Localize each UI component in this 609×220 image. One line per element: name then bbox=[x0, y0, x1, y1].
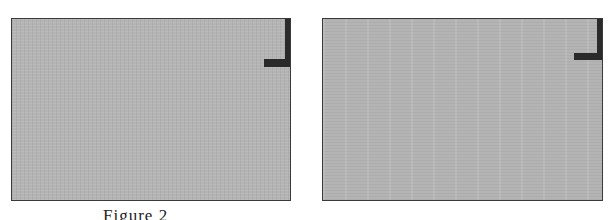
corner-bracket-horizontal-icon bbox=[264, 59, 290, 67]
figure-panel-left bbox=[11, 18, 291, 201]
figure-caption: Figure 2 bbox=[103, 206, 168, 220]
figure-panel-right bbox=[322, 18, 603, 201]
corner-bracket-horizontal-icon bbox=[574, 53, 602, 60]
